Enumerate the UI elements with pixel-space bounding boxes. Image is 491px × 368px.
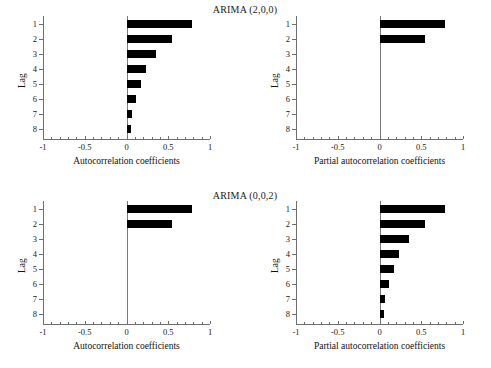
x-tick-minor — [313, 137, 314, 139]
x-tick-minor — [430, 322, 431, 324]
y-tick — [39, 69, 43, 70]
x-tick-minor — [363, 137, 364, 139]
x-tick-major — [85, 321, 86, 324]
x-tick-minor — [346, 137, 347, 139]
x-tick-minor — [110, 322, 111, 324]
y-tick — [39, 299, 43, 300]
x-tick-minor — [101, 322, 102, 324]
x-tick-minor — [185, 322, 186, 324]
y-tick — [292, 209, 296, 210]
x-tick-minor — [51, 137, 52, 139]
y-tick — [292, 129, 296, 130]
y-tick-label-lag: 7 — [23, 294, 37, 304]
y-tick-label-lag: 6 — [23, 94, 37, 104]
x-tick-label: -1 — [39, 327, 46, 337]
acf-bar — [380, 265, 394, 273]
x-tick-minor — [152, 137, 153, 139]
acf-bar — [127, 65, 146, 73]
y-tick — [39, 99, 43, 100]
x-tick-label: 0 — [377, 142, 381, 152]
x-tick-label: -0.5 — [331, 142, 344, 152]
x-tick-label: -1 — [292, 327, 299, 337]
x-tick-label: -0.5 — [78, 142, 91, 152]
y-axis-line — [43, 201, 44, 324]
y-tick — [292, 254, 296, 255]
x-axis-title: Partial autocorrelation coefficients — [276, 341, 483, 351]
x-tick-minor — [346, 322, 347, 324]
y-tick — [39, 254, 43, 255]
x-axis-line — [43, 139, 210, 140]
x-tick-minor — [321, 322, 322, 324]
x-tick-major — [338, 136, 339, 139]
y-tick — [292, 84, 296, 85]
x-axis-line — [296, 324, 463, 325]
y-tick — [292, 224, 296, 225]
x-tick-major — [421, 136, 422, 139]
y-tick-label-lag: 3 — [276, 49, 290, 59]
x-tick-major — [338, 321, 339, 324]
x-tick-minor — [143, 322, 144, 324]
y-tick-label-lag: 6 — [23, 279, 37, 289]
y-tick — [39, 54, 43, 55]
x-tick-label: 0.5 — [416, 142, 427, 152]
x-tick-minor — [101, 137, 102, 139]
y-tick — [39, 269, 43, 270]
chart-title-bottom: ARIMA (0,0,2) — [150, 190, 340, 201]
x-tick-minor — [185, 137, 186, 139]
x-tick-label: -1 — [292, 142, 299, 152]
y-tick — [292, 69, 296, 70]
y-axis-title: Lag — [17, 73, 27, 88]
x-tick-minor — [388, 137, 389, 139]
y-tick — [292, 24, 296, 25]
acf-bar — [380, 310, 384, 318]
x-tick-minor — [118, 137, 119, 139]
acf-bar — [127, 35, 172, 43]
x-tick-minor — [313, 322, 314, 324]
x-axis-line — [43, 324, 210, 325]
x-tick-minor — [160, 137, 161, 139]
y-tick-label-lag: 2 — [23, 34, 37, 44]
x-tick-minor — [304, 322, 305, 324]
x-tick-minor — [405, 322, 406, 324]
x-tick-minor — [76, 322, 77, 324]
y-tick — [292, 269, 296, 270]
y-tick-label-lag: 7 — [276, 294, 290, 304]
x-tick-minor — [413, 322, 414, 324]
x-tick-minor — [60, 322, 61, 324]
x-tick-minor — [51, 322, 52, 324]
x-tick-minor — [143, 137, 144, 139]
x-tick-major — [168, 136, 169, 139]
x-axis-title: Autocorrelation coefficients — [23, 156, 230, 166]
x-tick-minor — [68, 137, 69, 139]
y-tick-label-lag: 7 — [276, 109, 290, 119]
y-tick — [39, 24, 43, 25]
x-tick-minor — [396, 322, 397, 324]
x-tick-label: -0.5 — [331, 327, 344, 337]
y-tick — [292, 39, 296, 40]
y-tick-label-lag: 8 — [23, 309, 37, 319]
y-tick — [39, 284, 43, 285]
x-axis-title: Autocorrelation coefficients — [23, 341, 230, 351]
x-tick-label: 0 — [124, 142, 128, 152]
y-tick-label-lag: 6 — [276, 94, 290, 104]
y-tick-label-lag: 8 — [276, 124, 290, 134]
x-tick-minor — [118, 322, 119, 324]
y-tick-label-lag: 6 — [276, 279, 290, 289]
y-tick — [39, 224, 43, 225]
x-tick-major — [127, 321, 128, 324]
x-tick-minor — [135, 137, 136, 139]
acf-bar — [380, 280, 389, 288]
y-tick — [292, 239, 296, 240]
y-tick — [292, 54, 296, 55]
acf-bar — [127, 205, 192, 213]
x-tick-minor — [354, 322, 355, 324]
y-tick-label-lag: 2 — [23, 219, 37, 229]
y-axis-title: Lag — [270, 73, 280, 88]
x-tick-minor — [354, 137, 355, 139]
x-tick-label: 0.5 — [416, 327, 427, 337]
x-tick-label: 0.5 — [163, 142, 174, 152]
x-tick-minor — [396, 137, 397, 139]
x-tick-minor — [438, 322, 439, 324]
x-tick-minor — [438, 137, 439, 139]
x-tick-minor — [152, 322, 153, 324]
